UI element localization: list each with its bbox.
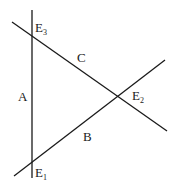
label-line-a: A xyxy=(18,89,28,104)
label-intersection-e1: E1 xyxy=(35,165,47,182)
line-b xyxy=(14,60,165,176)
label-intersection-e3: E3 xyxy=(35,20,47,37)
label-line-c: C xyxy=(77,50,86,65)
triangle-diagram: A B C E1 E2 E3 xyxy=(0,0,175,186)
label-intersection-e2: E2 xyxy=(132,88,144,105)
diagram-svg: A B C E1 E2 E3 xyxy=(0,0,175,186)
label-line-b: B xyxy=(83,129,92,144)
